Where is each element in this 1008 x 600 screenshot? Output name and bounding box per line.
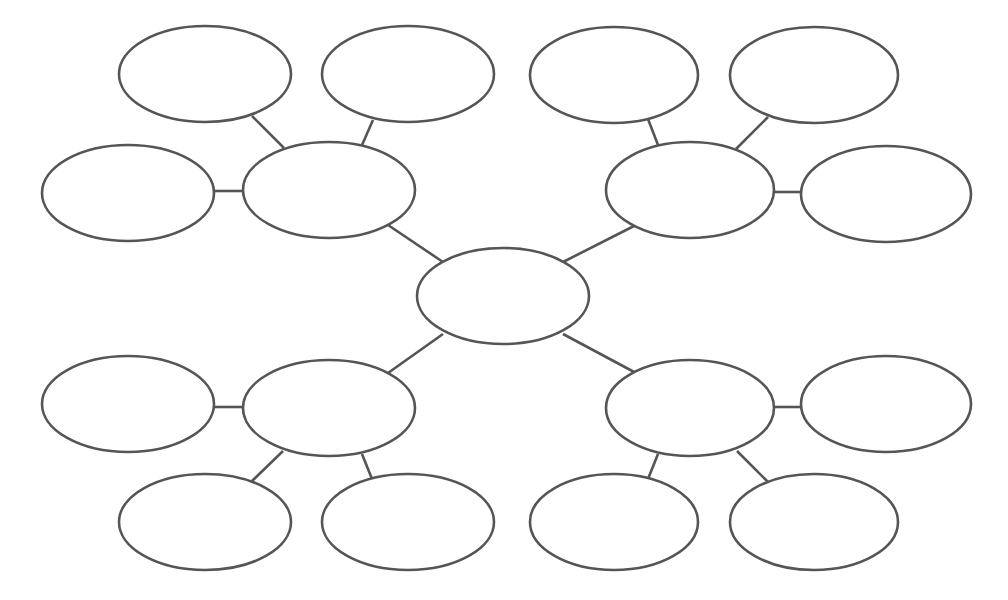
ellipse-shape[interactable] [530,474,698,570]
ellipse-shape[interactable] [530,27,698,123]
connector-hub-bl-to-bl-c [362,454,372,479]
connector-hub-bl-to-bl-b [251,451,283,482]
bubble-tl-b[interactable] [322,26,494,122]
bubble-bl-b[interactable] [119,474,291,570]
ellipse-shape[interactable] [606,360,774,456]
bubble-tr-b[interactable] [730,27,898,123]
bubble-br-b[interactable] [530,474,698,570]
ellipse-shape[interactable] [119,474,291,570]
ellipse-shape[interactable] [730,27,898,123]
bubble-hub-tr[interactable] [606,142,774,238]
bubble-hub-br[interactable] [606,360,774,456]
bubble-hub-tl[interactable] [243,142,415,238]
ellipse-shape[interactable] [243,142,415,238]
ellipse-shape[interactable] [606,142,774,238]
bubble-tl-c[interactable] [42,145,214,241]
connector-hub-br-to-br-b [648,454,658,479]
bubble-br-c[interactable] [730,474,898,570]
ellipse-shape[interactable] [42,356,214,452]
ellipse-shape[interactable] [322,26,494,122]
bubble-hub-bl[interactable] [243,360,415,456]
ellipse-shape[interactable] [243,360,415,456]
ellipse-shape[interactable] [417,248,589,344]
bubble-br-a[interactable] [801,356,971,452]
connector-center-to-hub-tl [388,225,443,262]
connector-hub-br-to-br-c [737,451,768,482]
connector-hub-tl-to-tl-a [252,116,284,148]
mind-map-diagram [0,0,1008,600]
bubble-bl-c[interactable] [322,474,494,570]
ellipse-shape[interactable] [801,356,971,452]
connector-hub-tl-to-tl-b [362,120,373,145]
connector-center-to-hub-tr [563,225,636,262]
connector-center-to-hub-bl [388,334,443,373]
ellipse-shape[interactable] [119,26,291,122]
bubble-tr-a[interactable] [530,27,698,123]
ellipse-shape[interactable] [730,474,898,570]
ellipse-shape[interactable] [801,146,971,242]
connector-hub-tr-to-tr-b [736,117,768,149]
ellipse-shape[interactable] [42,145,214,241]
bubble-tr-c[interactable] [801,146,971,242]
connector-hub-tr-to-tr-a [648,119,658,145]
bubble-nodes [42,26,971,570]
connector-center-to-hub-br [563,334,636,373]
bubble-bl-a[interactable] [42,356,214,452]
mind-map-canvas [0,0,1008,600]
bubble-tl-a[interactable] [119,26,291,122]
ellipse-shape[interactable] [322,474,494,570]
bubble-center[interactable] [417,248,589,344]
